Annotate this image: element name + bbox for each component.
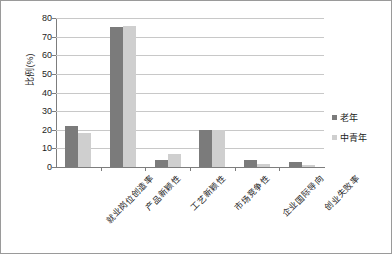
plot-area <box>56 18 324 167</box>
bar <box>123 26 136 167</box>
x-axis-tick-label: 工艺新颖性 <box>187 172 227 212</box>
y-axis-tick-mark <box>52 37 56 38</box>
y-axis-tick-label: 40 <box>42 88 52 98</box>
bar <box>289 162 302 167</box>
legend-label: 老年 <box>340 111 358 124</box>
bar-group <box>279 18 324 167</box>
y-axis-tick-mark <box>52 167 56 168</box>
y-axis-tick-mark <box>52 18 56 19</box>
legend-item[interactable]: 中青年 <box>332 131 367 144</box>
legend-swatch-icon <box>332 115 337 120</box>
bar <box>65 126 78 167</box>
legend-label: 中青年 <box>340 131 367 144</box>
y-axis-tick-mark <box>52 130 56 131</box>
legend-item[interactable]: 老年 <box>332 111 367 124</box>
y-axis-tick-mark <box>52 55 56 56</box>
bar-group <box>56 18 101 167</box>
x-axis-tick-mark <box>279 167 280 171</box>
y-axis-tick-label: 80 <box>42 13 52 23</box>
bar-group <box>235 18 280 167</box>
x-axis-tick-mark <box>145 167 146 171</box>
y-axis-tick-label: 70 <box>42 32 52 42</box>
bar <box>78 133 91 167</box>
y-axis-tick-label: 50 <box>42 69 52 79</box>
x-axis-tick-mark <box>235 167 236 171</box>
y-axis-tick-label: 60 <box>42 50 52 60</box>
bar-group <box>101 18 146 167</box>
y-axis-tick-mark <box>52 74 56 75</box>
chart-legend: 老年中青年 <box>332 111 367 151</box>
legend-swatch-icon <box>332 135 337 140</box>
y-axis-tick-label: 10 <box>42 143 52 153</box>
bar <box>155 160 168 167</box>
bar <box>168 154 181 167</box>
x-axis-tick-label: 创业失败率 <box>321 172 361 212</box>
y-axis-tick-labels: 01020304050607080 <box>1 18 52 167</box>
bar <box>257 164 270 167</box>
bar-series-group <box>56 18 324 167</box>
bar <box>244 160 257 167</box>
y-axis-tick-label: 20 <box>42 125 52 135</box>
bar <box>199 130 212 167</box>
bar <box>212 130 225 167</box>
y-axis-tick-label: 30 <box>42 106 52 116</box>
x-axis-tick-mark <box>190 167 191 171</box>
chart-container: 比例(%) 01020304050607080 就业岗位创造率产品新颖性工艺新颖… <box>0 0 392 254</box>
y-axis-tick-mark <box>52 93 56 94</box>
bar-group <box>190 18 235 167</box>
x-axis-tick-labels: 就业岗位创造率产品新颖性工艺新颖性市场竞争性企业国际导向创业失败率 <box>56 172 324 252</box>
bar <box>302 165 315 167</box>
x-axis-tick-mark <box>101 167 102 171</box>
x-axis-tick-label: 市场竞争性 <box>232 172 272 212</box>
bar-group <box>145 18 190 167</box>
bar <box>110 27 123 167</box>
x-axis-tick-label: 企业国际导向 <box>279 172 326 219</box>
y-axis-tick-mark <box>52 148 56 149</box>
y-axis-tick-mark <box>52 111 56 112</box>
